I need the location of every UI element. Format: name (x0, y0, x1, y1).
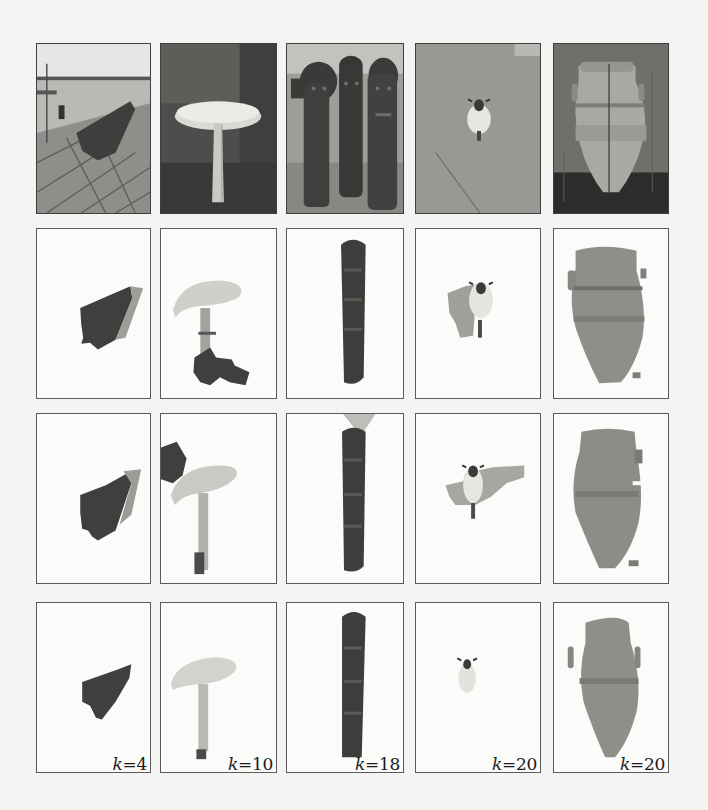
totem-segment-shape (287, 603, 403, 772)
segment-a-sheep (415, 228, 541, 399)
k-value: 4 (136, 754, 147, 773)
k-value-label: k=20 (492, 754, 537, 773)
segment-c-sheep: k=20 (415, 602, 541, 773)
segment-b-mushroom (160, 413, 277, 584)
equals-sign: = (123, 754, 137, 773)
sheep-segment-shape (416, 603, 540, 772)
segment-b-totem (286, 413, 404, 584)
boat-segment-shape (37, 603, 150, 772)
photo-vase (553, 43, 669, 214)
boat-segment-shape (37, 414, 150, 583)
k-value: 20 (644, 754, 665, 773)
mushroom-segment-shape (161, 229, 276, 398)
k-value-label: k=4 (113, 754, 148, 773)
segment-a-vase (553, 228, 669, 399)
vase-photo-image (554, 44, 668, 213)
totem-segment-shape (287, 414, 403, 583)
vase-segment-shape (554, 414, 668, 583)
boat-photo-image (37, 44, 150, 213)
k-variable: k (355, 754, 365, 773)
photo-boat (36, 43, 151, 214)
segment-b-boat (36, 413, 151, 584)
photo-mushroom (160, 43, 277, 214)
photo-totems (286, 43, 404, 214)
sheep-segment-shape (416, 229, 540, 398)
vase-segment-shape (554, 229, 668, 398)
segment-c-vase: k=20 (553, 602, 669, 773)
segment-b-sheep (415, 413, 541, 584)
segment-a-mushroom (160, 228, 277, 399)
vase-segment-shape (554, 603, 668, 772)
k-variable: k (620, 754, 630, 773)
k-value: 18 (379, 754, 400, 773)
mushroom-segment-shape (161, 414, 276, 583)
mushroom-photo-image (161, 44, 276, 213)
equals-sign: = (630, 754, 644, 773)
boat-segment-shape (37, 229, 150, 398)
segment-b-vase (553, 413, 669, 584)
k-variable: k (228, 754, 238, 773)
k-value: 20 (516, 754, 537, 773)
segment-a-boat (36, 228, 151, 399)
sheep-segment-shape (416, 414, 540, 583)
k-value-label: k=20 (620, 754, 665, 773)
k-variable: k (113, 754, 123, 773)
mushroom-segment-shape (161, 603, 276, 772)
image-grid-figure: k=4 k=10 k=18 k=20 k=20 (0, 0, 708, 810)
k-variable: k (492, 754, 502, 773)
k-value: 10 (252, 754, 273, 773)
segment-c-mushroom: k=10 (160, 602, 277, 773)
segment-c-boat: k=4 (36, 602, 151, 773)
k-value-label: k=10 (228, 754, 273, 773)
photo-sheep (415, 43, 541, 214)
totems-photo-image (287, 44, 403, 213)
totem-segment-shape (287, 229, 403, 398)
equals-sign: = (238, 754, 252, 773)
k-value-label: k=18 (355, 754, 400, 773)
sheep-photo-image (416, 44, 540, 213)
segment-a-totem (286, 228, 404, 399)
segment-c-totem: k=18 (286, 602, 404, 773)
equals-sign: = (502, 754, 516, 773)
equals-sign: = (365, 754, 379, 773)
